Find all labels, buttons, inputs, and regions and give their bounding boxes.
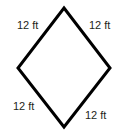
side-label-top-left: 12 ft <box>17 19 38 31</box>
side-label-bottom-right: 12 ft <box>85 109 106 121</box>
side-label-bottom-left: 12 ft <box>13 100 34 112</box>
geometry-figure-rhombus: 12 ft 12 ft 12 ft 12 ft <box>0 0 126 133</box>
side-label-top-right: 12 ft <box>89 19 110 31</box>
